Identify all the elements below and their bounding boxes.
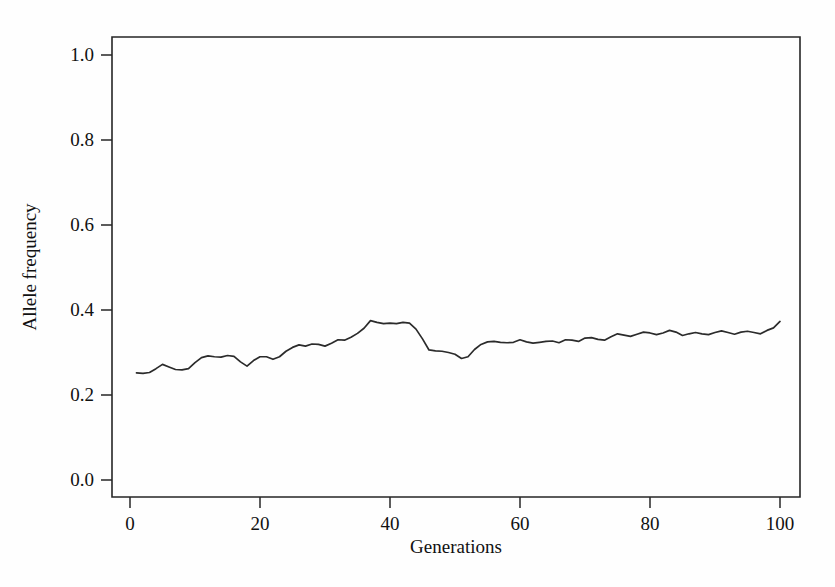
x-axis-title: Generations xyxy=(410,536,502,557)
y-axis-ticks xyxy=(101,55,112,480)
y-axis-title: Allele frequency xyxy=(19,203,40,331)
y-tick-label: 0.2 xyxy=(70,384,94,405)
y-tick-label: 0.8 xyxy=(70,129,94,150)
x-tick-label: 40 xyxy=(381,513,400,534)
x-tick-label: 20 xyxy=(251,513,270,534)
y-tick-label: 0.0 xyxy=(70,469,94,490)
y-axis-tick-labels: 0.00.20.40.60.81.0 xyxy=(70,44,94,490)
figure-container: 0.00.20.40.60.81.0 020406080100 Allele f… xyxy=(0,0,835,587)
allele-frequency-line-chart: 0.00.20.40.60.81.0 020406080100 Allele f… xyxy=(0,0,835,587)
x-axis-ticks xyxy=(130,497,780,508)
plot-box xyxy=(112,37,800,497)
y-tick-label: 0.4 xyxy=(70,299,94,320)
x-tick-label: 0 xyxy=(125,513,135,534)
x-tick-label: 80 xyxy=(641,513,660,534)
x-axis-tick-labels: 020406080100 xyxy=(125,513,794,534)
x-tick-label: 100 xyxy=(766,513,795,534)
data-series-group xyxy=(137,321,781,374)
plot-frame xyxy=(112,37,800,497)
x-tick-label: 60 xyxy=(511,513,530,534)
data-series-line-0 xyxy=(137,321,781,374)
y-tick-label: 0.6 xyxy=(70,214,94,235)
y-tick-label: 1.0 xyxy=(70,44,94,65)
